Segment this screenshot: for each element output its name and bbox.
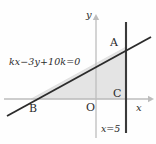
equation-label: kx−3y+10k=0: [9, 57, 80, 67]
point-label-b: B: [29, 103, 37, 114]
vertical-line-label: x=5: [101, 124, 120, 134]
coordinate-geometry-figure: kx−3y+10k=0 A B C O y x x=5: [0, 0, 156, 144]
x-axis-arrow-icon: [148, 96, 154, 102]
figure-canvas: [0, 0, 156, 144]
point-label-a: A: [110, 37, 118, 48]
y-axis-arrow-icon: [93, 14, 99, 20]
point-label-c: C: [113, 88, 121, 99]
y-axis-label: y: [86, 10, 92, 20]
x-axis-label: x: [136, 103, 142, 113]
shaded-triangle-region: [31, 47, 126, 99]
origin-label: O: [86, 102, 95, 113]
